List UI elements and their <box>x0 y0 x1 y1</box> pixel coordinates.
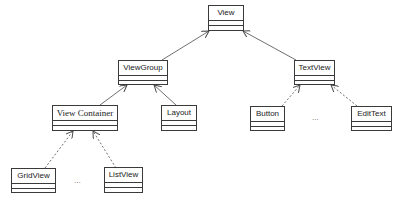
edge-edittext-textview <box>331 85 357 106</box>
class-operations <box>251 127 284 130</box>
edge-gridview-viewcontainer <box>45 131 73 168</box>
uml-diagram: View ViewGroup TextView View Container L… <box>0 0 399 202</box>
class-name: EditText <box>352 107 391 122</box>
edge-layout-viewgroup <box>154 85 176 105</box>
class-name: GridView <box>12 169 55 184</box>
class-listview[interactable]: ListView <box>104 167 143 193</box>
edge-textview-view <box>243 31 296 60</box>
class-name: View <box>209 6 243 21</box>
class-operations <box>295 81 334 84</box>
edge-viewgroup-view <box>162 31 209 60</box>
class-name: Button <box>251 107 284 122</box>
class-operations <box>209 26 243 30</box>
class-operations <box>162 126 196 130</box>
edge-viewcontainer-viewgroup <box>100 85 127 105</box>
class-viewgroup[interactable]: ViewGroup <box>118 60 168 85</box>
class-operations <box>352 127 391 130</box>
class-operations <box>119 81 167 84</box>
class-button[interactable]: Button <box>250 106 285 131</box>
edge-button-textview <box>282 85 300 106</box>
class-gridview[interactable]: GridView <box>11 168 56 193</box>
ellipsis-viewcontainer-subclasses: ... <box>74 177 81 185</box>
class-textview[interactable]: TextView <box>294 60 335 85</box>
class-operations <box>105 188 142 192</box>
class-operations <box>12 189 55 192</box>
class-layout[interactable]: Layout <box>161 105 197 131</box>
ellipsis-textview-subclasses: ... <box>312 114 319 122</box>
class-name: View Container <box>53 106 117 121</box>
relationship-lines <box>0 0 399 202</box>
class-operations <box>53 126 117 130</box>
class-name: ViewGroup <box>119 61 167 76</box>
class-view-container[interactable]: View Container <box>52 105 118 131</box>
class-name: TextView <box>295 61 334 76</box>
class-view[interactable]: View <box>208 5 244 31</box>
class-name: Layout <box>162 106 196 121</box>
class-name: ListView <box>105 168 142 183</box>
class-edittext[interactable]: EditText <box>351 106 392 131</box>
edge-listview-viewcontainer <box>93 131 116 168</box>
